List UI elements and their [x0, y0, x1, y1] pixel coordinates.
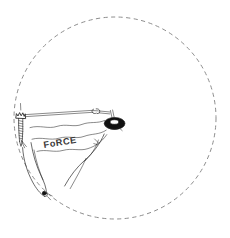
- small-clip: [92, 109, 100, 114]
- force-diagram-svg: FoRCE: [0, 0, 230, 238]
- bolt-anchor: [16, 104, 27, 148]
- force-label: FoRCE: [43, 135, 78, 150]
- pivot-ring-knob: [104, 117, 125, 130]
- sketch-canvas: FoRCE: [0, 0, 230, 238]
